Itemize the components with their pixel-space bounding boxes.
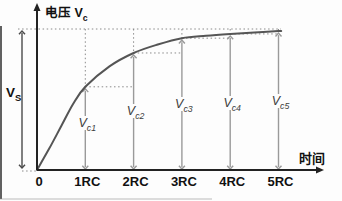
marker-label-vc2: Vc2 (126, 104, 146, 118)
marker-label-vc1: Vc1 (78, 116, 98, 130)
tick-label-5rc: 5RC (267, 174, 293, 189)
marker-label-vc4: Vc4 (222, 96, 242, 110)
vs-source-voltage-label: VS (6, 85, 21, 100)
rc-charging-chart: 电压 Vc 时间 VS 01RC2RC3RC4RC5RC Vc1Vc2Vc3Vc… (0, 0, 342, 201)
tick-label-4rc: 4RC (219, 174, 245, 189)
tick-label-1rc: 1RC (74, 174, 100, 189)
y-axis-label-text: 电压 V (45, 6, 83, 20)
scan-edge-artifact-bottom (0, 198, 212, 200)
marker-label-vc3: Vc3 (174, 97, 194, 111)
vs-label-subscript: S (15, 92, 21, 103)
x-axis-label: 时间 (299, 148, 325, 167)
scan-edge-artifact-left (0, 26, 2, 199)
marker-label-vc5: Vc5 (271, 94, 291, 108)
y-axis-label-subscript: c (83, 13, 88, 23)
y-axis-label: 电压 Vc (45, 2, 88, 21)
tick-label-3rc: 3RC (171, 174, 197, 189)
vs-label-text: V (6, 85, 15, 100)
chart-canvas (0, 0, 342, 201)
tick-label-0: 0 (35, 174, 42, 189)
tick-label-2rc: 2RC (123, 174, 149, 189)
